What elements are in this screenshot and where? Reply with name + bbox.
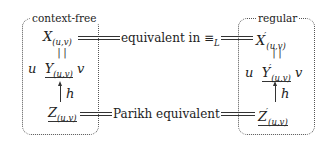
context-free-label: context-free (30, 12, 98, 24)
right-z-node: Z′(u,v) (258, 105, 288, 130)
right-y-prime: ′ (269, 63, 271, 73)
left-z-node: Z(u,v) (48, 105, 77, 126)
left-arrow-line (60, 84, 61, 102)
right-y-suffix: v (295, 65, 302, 80)
left-arrow-label: h (66, 86, 74, 101)
left-z-base: Z (48, 105, 57, 120)
right-z-prime: ′ (266, 107, 268, 117)
left-equality-sign: || (56, 48, 68, 58)
left-y-term: Y(u,v) (45, 61, 73, 78)
equiv-sub: L (214, 38, 220, 48)
right-equality-sign: || (271, 48, 283, 58)
left-x-base: X (43, 29, 52, 44)
left-y-suffix: v (77, 61, 84, 76)
regular-label: regular (256, 12, 299, 24)
left-y-prefix: u (28, 61, 36, 76)
top-relation-text: equivalent in (121, 31, 204, 45)
right-arrow-line (275, 84, 276, 102)
left-y-base: Y (45, 61, 54, 76)
left-y-node: u Y(u,v) v (28, 61, 84, 82)
right-y-prefix: u (245, 65, 253, 80)
right-x-prime: ′ (264, 31, 266, 41)
top-relation-label: equivalent in ≡L (120, 31, 221, 50)
left-y-sub: (u,v) (53, 69, 73, 79)
right-y-term: Y′(u,v) (262, 65, 291, 82)
equiv-symbol: ≡ (204, 31, 214, 45)
left-z-sub: (u,v) (57, 113, 77, 123)
right-z-sub: (u,v) (268, 117, 288, 127)
right-z-term: Z′(u,v) (258, 109, 288, 126)
bottom-relation-label: Parikh equivalent (112, 107, 221, 121)
left-x-sub: (u,v) (52, 37, 72, 47)
right-arrow-label: h (281, 86, 289, 101)
left-z-term: Z(u,v) (48, 105, 77, 122)
